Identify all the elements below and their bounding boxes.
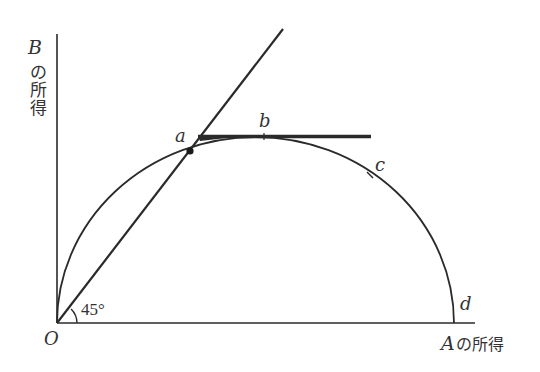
angle-arc (71, 309, 77, 323)
x-axis-label-text: の所得 (456, 335, 504, 354)
y-axis-var-label: B (27, 36, 42, 58)
point-d-label: d (460, 293, 472, 314)
point-a-label: a (175, 125, 186, 146)
point-a-marker (186, 147, 193, 154)
y-axis-label-char-2: 所 (30, 80, 47, 100)
y-axis-label-char-1: の (30, 62, 47, 82)
point-b-label: b (259, 110, 271, 131)
origin-label: O (44, 328, 59, 349)
frontier-curve (57, 137, 454, 323)
y-axis-label-char-3: 得 (30, 98, 47, 118)
forty-five-degree-line (57, 29, 283, 323)
point-c-label: c (375, 154, 385, 175)
diagram-canvas: B の 所 得 O 45° A の所得 a b c d (0, 0, 540, 372)
angle-label: 45° (81, 300, 105, 319)
x-axis-var-label: A (439, 332, 455, 354)
